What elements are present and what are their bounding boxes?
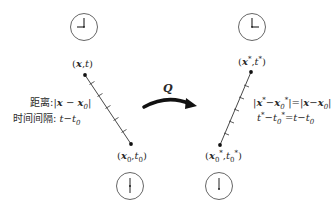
event-label-top: (x,t)	[72, 58, 93, 70]
right-interval-line	[218, 70, 253, 147]
event-point-bottom-transformed	[218, 143, 222, 147]
event-label-bottom: (x0,t0)	[117, 150, 147, 162]
clock-icon-right-bottom	[206, 173, 233, 200]
event-point-bottom	[129, 142, 133, 146]
event-label-bottom-transformed: (x0*,t0*)	[205, 150, 242, 162]
event-label-top-transformed: (x*,t*)	[238, 56, 266, 68]
event-point-top	[83, 73, 87, 77]
transform-label: Q	[163, 83, 173, 95]
transform-arrow-icon	[144, 98, 197, 109]
distance-text: 距离:|x − x0|	[30, 97, 91, 109]
left-interval-line	[83, 73, 133, 146]
clock-icon-left-bottom	[117, 173, 144, 200]
event-point-top-transformed	[249, 70, 253, 74]
clock-icon-right-top	[239, 14, 266, 41]
distance-equation: |x*−x0*|=|x−x0|	[253, 97, 331, 109]
interval-equation: t*−t0*=t−t0	[257, 112, 314, 124]
clock-icon-left-top	[71, 14, 98, 41]
interval-text: 时间间隔: t−t0	[13, 113, 80, 125]
galilean-transform-diagram: Q (x,t) (x0,t0) 距离:|x − x0| 时间间隔: t−t0 (…	[0, 0, 335, 214]
